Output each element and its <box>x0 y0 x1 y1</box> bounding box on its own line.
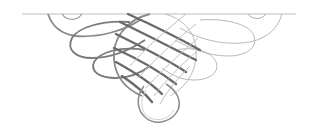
flourish-ornament-icon <box>0 0 309 137</box>
left-cap-loop <box>62 14 82 19</box>
ornament-canvas: Decorative calligraphic flourish divider <box>0 0 309 137</box>
right-inner-loop <box>162 49 217 80</box>
right-outer-swoop <box>180 14 282 43</box>
right-cap-loop <box>248 14 266 19</box>
central-right-arch <box>165 14 196 96</box>
right-large-loop <box>175 20 255 56</box>
